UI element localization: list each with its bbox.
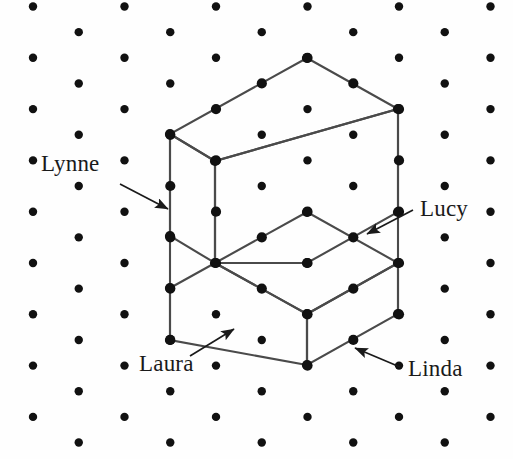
grid-dot — [349, 387, 357, 395]
grid-dot — [120, 2, 128, 10]
grid-dot — [75, 131, 83, 139]
solid-vertex-dot — [348, 284, 358, 294]
solid-vertex-dot — [165, 231, 175, 241]
solid-vertex-dot — [393, 309, 403, 319]
grid-dot — [258, 438, 266, 446]
grid-dot — [303, 413, 311, 421]
solid-vertex-dot — [165, 335, 175, 345]
face-label-lucy: Lucy — [420, 197, 468, 220]
solid-vertex-dot — [257, 284, 267, 294]
grid-dot — [258, 387, 266, 395]
grid-dot — [258, 28, 266, 36]
grid-dot — [441, 233, 449, 241]
grid-dot — [29, 156, 37, 164]
grid-dot — [395, 54, 403, 62]
solid-vertex-dot — [165, 181, 175, 191]
grid-dot — [441, 387, 449, 395]
grid-dot — [75, 79, 83, 87]
solid-vertex-dot — [348, 78, 358, 88]
grid-dot — [441, 79, 449, 87]
grid-dot — [29, 208, 37, 216]
grid-dot — [212, 54, 220, 62]
grid-dot — [166, 387, 174, 395]
grid-dot — [75, 336, 83, 344]
grid-dot — [29, 2, 37, 10]
grid-dot — [486, 2, 494, 10]
solid-vertex-dot — [302, 53, 312, 63]
grid-dot — [303, 2, 311, 10]
label-arrow-linda — [355, 348, 400, 367]
grid-dot — [120, 54, 128, 62]
solid-edge-upper-top-face — [170, 58, 398, 161]
grid-dot — [258, 182, 266, 190]
solid-edge-upper-right-face — [215, 109, 398, 263]
grid-dot — [29, 413, 37, 421]
grid-dot — [486, 105, 494, 113]
solid-edge-lower-right-face — [307, 263, 398, 365]
grid-dot — [29, 361, 37, 369]
label-arrow-lynne — [120, 184, 168, 209]
solid-vertex-dot — [302, 258, 312, 268]
grid-dot — [29, 259, 37, 267]
solid-vertex-dot — [257, 232, 267, 242]
grid-dot — [441, 131, 449, 139]
grid-dot — [166, 438, 174, 446]
grid-dot — [120, 310, 128, 318]
grid-dot — [303, 105, 311, 113]
grid-dot — [120, 208, 128, 216]
grid-dot — [441, 28, 449, 36]
grid-dot — [441, 182, 449, 190]
grid-dot — [486, 54, 494, 62]
grid-dot — [486, 413, 494, 421]
grid-dot — [258, 336, 266, 344]
solid-edge-upper-left-face — [170, 134, 215, 263]
grid-dot — [120, 105, 128, 113]
label-arrow-lucy — [367, 210, 413, 234]
grid-dot — [486, 156, 494, 164]
solid-vertex-dot — [210, 258, 220, 268]
grid-dot — [166, 28, 174, 36]
solid-edge-lower-left-face — [170, 263, 307, 365]
grid-dot — [212, 413, 220, 421]
grid-dot — [395, 2, 403, 10]
solid-vertex-dot — [393, 258, 403, 268]
grid-dot — [486, 259, 494, 267]
solid-vertex-dot — [393, 104, 403, 114]
grid-dot — [29, 54, 37, 62]
grid-dot — [486, 361, 494, 369]
grid-dot — [349, 28, 357, 36]
grid-dot — [486, 208, 494, 216]
grid-dot — [166, 79, 174, 87]
label-arrows-layer — [120, 184, 413, 367]
label-arrow-laura — [190, 329, 234, 356]
solid-vertex-dot — [302, 309, 312, 319]
grid-dot — [29, 105, 37, 113]
grid-dot — [486, 310, 494, 318]
grid-dot — [441, 438, 449, 446]
grid-dot — [120, 259, 128, 267]
grid-dot — [75, 233, 83, 241]
solid-vertex-dot — [210, 156, 220, 166]
grid-dot — [120, 156, 128, 164]
solid-edges-layer — [170, 58, 398, 365]
solid-vertex-dots-layer — [165, 53, 404, 371]
solid-vertex-dot — [211, 104, 221, 114]
grid-dot — [75, 387, 83, 395]
grid-dot — [349, 131, 357, 139]
solid-vertex-dot — [302, 207, 312, 217]
grid-dot — [441, 336, 449, 344]
grid-dot — [212, 2, 220, 10]
grid-dot — [349, 182, 357, 190]
grid-dot — [303, 156, 311, 164]
grid-dot — [441, 284, 449, 292]
face-label-laura: Laura — [139, 352, 194, 375]
grid-dot — [75, 182, 83, 190]
face-label-linda: Linda — [408, 357, 463, 380]
grid-dot — [29, 310, 37, 318]
solid-vertex-dot — [211, 207, 221, 217]
solid-vertex-dot — [348, 232, 358, 242]
solid-vertex-dot — [394, 155, 404, 165]
solid-vertex-dot — [302, 360, 312, 370]
grid-dot — [75, 438, 83, 446]
grid-dot — [349, 438, 357, 446]
